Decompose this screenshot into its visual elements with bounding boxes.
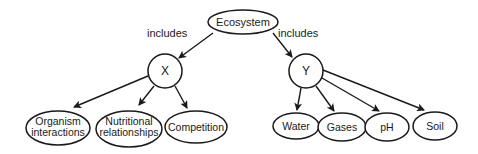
node-x-label: X [161, 64, 169, 78]
node-competition: Competition [165, 111, 227, 143]
edge-label-left: includes [147, 27, 188, 39]
node-x: X [148, 54, 182, 88]
edge-x-organism [74, 76, 148, 107]
node-water-label: Water [282, 120, 310, 132]
node-gases: Gases [318, 113, 366, 141]
edge-label-right: includes [278, 27, 319, 39]
node-water: Water [273, 113, 319, 139]
concept-map: includes includes Ecosystem X Y Organism… [0, 0, 478, 154]
node-competition-label: Competition [168, 121, 224, 133]
edge-x-competition [175, 86, 187, 108]
node-gases-label: Gases [327, 121, 357, 133]
node-organism-interactions: Organism interactions [26, 111, 90, 145]
node-ph: pH [365, 113, 409, 141]
node-nutritional-line2: relationships [100, 126, 159, 138]
node-ph-label: pH [380, 121, 393, 133]
node-ecosystem: Ecosystem [208, 10, 278, 34]
node-soil-label: Soil [426, 120, 444, 132]
node-ecosystem-label: Ecosystem [216, 16, 270, 28]
node-nutritional-relationships: Nutritional relationships [96, 111, 162, 147]
edge-y-gases [316, 86, 334, 111]
edge-y-water [297, 88, 301, 110]
node-organism-line2: interactions [31, 126, 85, 138]
edge-y-soil [323, 70, 424, 110]
edge-x-nutritional [139, 86, 154, 105]
node-y-label: Y [302, 64, 310, 78]
node-y: Y [289, 54, 323, 88]
node-soil: Soil [413, 112, 457, 140]
